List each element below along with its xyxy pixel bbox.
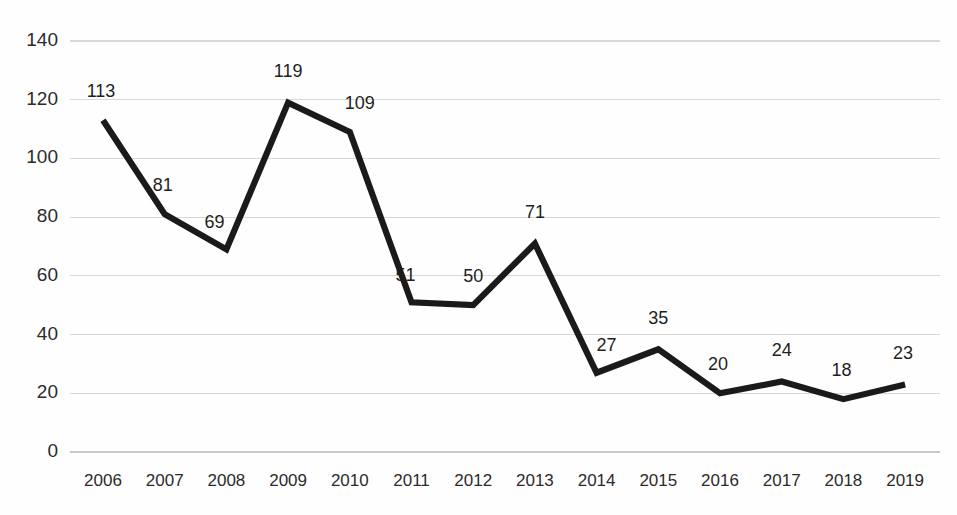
data-point-label: 109 xyxy=(345,93,375,113)
data-point-label: 27 xyxy=(597,335,617,355)
data-point-label: 113 xyxy=(87,81,116,101)
y-axis-tick-label: 0 xyxy=(47,440,58,461)
data-point-label: 35 xyxy=(648,308,668,328)
data-point-label: 51 xyxy=(395,265,415,285)
data-point-label: 18 xyxy=(831,360,851,380)
x-axis-tick-label: 2013 xyxy=(516,471,554,490)
x-axis-tick-label: 2014 xyxy=(578,471,616,490)
data-point-label: 69 xyxy=(204,212,224,232)
x-axis-tick-label: 2015 xyxy=(639,471,677,490)
x-axis-tick-label: 2010 xyxy=(331,471,369,490)
y-axis-tick-labels: 020406080100120140 xyxy=(26,29,58,461)
line-chart: 020406080100120140 200620072008200920102… xyxy=(0,0,957,515)
x-axis-tick-label: 2008 xyxy=(207,471,245,490)
data-point-label: 71 xyxy=(525,202,545,222)
data-point-label: 81 xyxy=(153,175,173,195)
y-axis-tick-label: 100 xyxy=(26,146,58,167)
data-point-label: 119 xyxy=(274,61,303,81)
x-axis-tick-label: 2009 xyxy=(269,471,307,490)
x-axis-tick-label: 2017 xyxy=(763,471,801,490)
data-point-labels: 1138169119109515071273520241823 xyxy=(87,61,913,380)
x-axis-tick-label: 2011 xyxy=(393,471,430,490)
data-point-label: 23 xyxy=(893,343,913,363)
y-axis-tick-label: 80 xyxy=(37,205,58,226)
y-axis-tick-label: 20 xyxy=(37,381,58,402)
x-axis-tick-label: 2019 xyxy=(886,471,924,490)
x-axis-tick-labels: 2006200720082009201020112012201320142015… xyxy=(84,471,924,490)
x-axis-tick-label: 2016 xyxy=(701,471,739,490)
y-axis-tick-label: 60 xyxy=(37,264,58,285)
chart-canvas: 020406080100120140 200620072008200920102… xyxy=(0,0,957,515)
x-axis-tick-label: 2006 xyxy=(84,471,122,490)
data-point-label: 20 xyxy=(708,354,728,374)
data-point-label: 24 xyxy=(772,340,792,360)
y-axis-tick-label: 140 xyxy=(26,29,58,50)
x-axis-tick-label: 2018 xyxy=(824,471,862,490)
data-point-label: 50 xyxy=(463,266,483,286)
x-axis-tick-label: 2007 xyxy=(146,471,184,490)
x-axis-tick-label: 2012 xyxy=(454,471,492,490)
y-axis-tick-label: 120 xyxy=(26,88,58,109)
y-axis-tick-label: 40 xyxy=(37,323,58,344)
